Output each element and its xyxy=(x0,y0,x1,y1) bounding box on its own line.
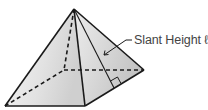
slant-height-label: Slant Height ℓ xyxy=(134,33,208,47)
pyramid-diagram xyxy=(0,0,208,110)
front-face xyxy=(5,9,85,106)
